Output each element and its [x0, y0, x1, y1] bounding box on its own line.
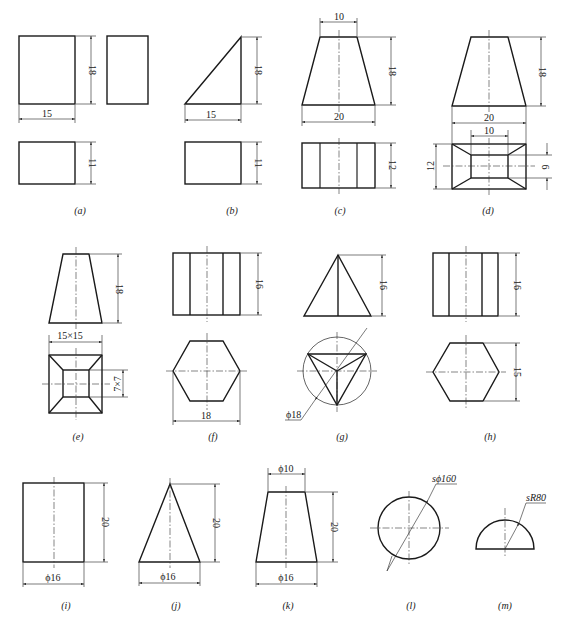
- figure-e: 18 15×15 7×7 (e): [42, 247, 128, 443]
- figure-j: 20 ϕ16 (j): [139, 478, 222, 612]
- dim-g-diameter: ϕ18: [286, 409, 301, 420]
- dim-a-depth: 11: [87, 158, 98, 168]
- dim-d-bottom: 20: [484, 112, 494, 123]
- dim-m-radius: sR80: [526, 492, 546, 503]
- caption-k: (k): [282, 600, 294, 612]
- caption-j: (j): [171, 600, 181, 612]
- figure-l: sϕ160 (l): [370, 473, 457, 612]
- caption-g: (g): [336, 431, 348, 443]
- dim-j-height: 20: [211, 518, 222, 528]
- figure-b: 18 15 11 (b): [185, 37, 264, 217]
- caption-d: (d): [482, 205, 494, 217]
- figure-m: sR80 (m): [476, 492, 546, 612]
- dim-h-height: 16: [512, 280, 523, 290]
- caption-i: (i): [61, 600, 71, 612]
- dim-e-height: 18: [114, 284, 125, 294]
- dim-d-top-depth: 6: [540, 165, 551, 170]
- dim-k-height: 20: [329, 522, 340, 532]
- figure-f: 16 18 (f): [166, 246, 265, 443]
- caption-l: (l): [406, 600, 416, 612]
- caption-b: (b): [226, 205, 238, 217]
- dim-j-diameter: ϕ16: [160, 571, 175, 582]
- dim-d-top: 10: [484, 125, 494, 136]
- dim-c-bottom: 20: [334, 111, 344, 122]
- dim-f-height: 16: [254, 279, 265, 289]
- figure-k: ϕ10 20 ϕ16 (k): [256, 463, 340, 612]
- dim-e-top: 7×7: [112, 376, 123, 392]
- caption-e: (e): [72, 431, 84, 443]
- dim-b-height: 18: [253, 65, 264, 75]
- dim-a-height: 18: [87, 65, 98, 75]
- dim-e-bottom: 15×15: [57, 330, 83, 341]
- drawing-sheet: 18 15 11 (a) 18 15 11 (b): [0, 0, 561, 634]
- dim-h-across-flats: 15: [512, 367, 523, 377]
- caption-a: (a): [74, 205, 86, 217]
- caption-f: (f): [208, 431, 218, 443]
- dim-l-diameter: sϕ160: [432, 473, 456, 484]
- dim-d-depth: 12: [425, 161, 436, 171]
- caption-c: (c): [334, 205, 346, 217]
- caption-m: (m): [498, 600, 513, 612]
- dim-c-depth: 12: [387, 160, 398, 170]
- dim-c-top: 10: [334, 11, 344, 22]
- dim-f-across: 18: [201, 410, 211, 421]
- dim-a-width: 15: [42, 108, 52, 119]
- figure-a: 18 15 11 (a): [19, 36, 148, 217]
- figure-i: 20 ϕ16 (i): [23, 477, 111, 612]
- figure-h: 16 15 (h): [426, 246, 523, 443]
- figure-g: 16 ϕ18 (g): [285, 255, 389, 443]
- dim-k-bottom: ϕ16: [278, 572, 293, 583]
- figure-d: 18 20 10 12 6 (d): [425, 30, 552, 217]
- caption-h: (h): [484, 431, 496, 443]
- dim-k-top: ϕ10: [278, 463, 293, 474]
- dim-i-height: 20: [100, 517, 111, 527]
- dim-b-depth: 11: [253, 158, 264, 168]
- dim-d-height: 18: [537, 67, 548, 77]
- dim-i-diameter: ϕ16: [45, 572, 60, 583]
- dim-b-width: 15: [206, 109, 216, 120]
- figure-c: 10 18 20 12 (c): [302, 11, 398, 217]
- dim-c-height: 18: [387, 66, 398, 76]
- dim-g-height: 16: [378, 280, 389, 290]
